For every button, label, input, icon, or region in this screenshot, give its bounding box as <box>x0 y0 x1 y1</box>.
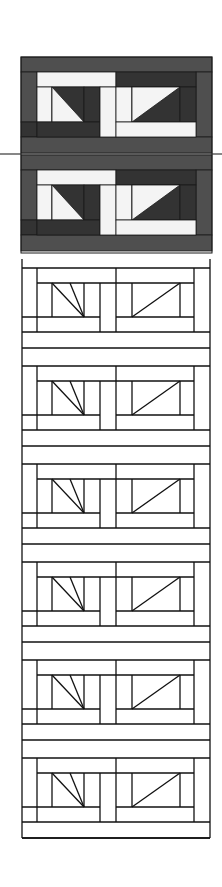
right-diagonal <box>132 283 180 317</box>
right-strip <box>116 87 132 122</box>
left-diagonal <box>52 479 84 513</box>
center-column <box>100 87 116 137</box>
bottom-band <box>21 235 212 251</box>
right-column <box>196 72 212 137</box>
outline-stroke <box>70 283 84 317</box>
left-column <box>21 170 37 220</box>
outline-stroke <box>70 675 84 709</box>
bottom-left-bar <box>37 122 100 137</box>
right-dark-strip <box>180 87 196 122</box>
right-diagonal <box>132 773 180 807</box>
left-diagonal <box>52 675 84 709</box>
top-left-bar <box>37 170 116 185</box>
bottom-left-bar <box>37 220 100 235</box>
bottom-right-bar <box>116 122 196 137</box>
left-dark-strip <box>84 87 100 122</box>
shaded-block <box>21 57 212 153</box>
right-strip <box>116 185 132 220</box>
outline-stroke <box>70 577 84 611</box>
corner-square <box>21 122 37 137</box>
right-diagonal <box>132 675 180 709</box>
left-diagonal <box>52 283 84 317</box>
left-diagonal <box>52 773 84 807</box>
outline-stroke <box>70 381 84 415</box>
bottom-band <box>21 137 212 153</box>
left-strip <box>37 87 52 122</box>
corner-square <box>21 220 37 235</box>
left-diagonal <box>52 381 84 415</box>
shaded-block <box>21 155 212 251</box>
top-left-bar <box>37 72 116 87</box>
quilt-pattern-diagram <box>0 0 222 887</box>
outline-stroke <box>70 479 84 513</box>
left-diagonal <box>52 577 84 611</box>
right-dark-strip <box>180 185 196 220</box>
top-band <box>21 57 212 72</box>
top-band <box>21 155 212 170</box>
outline-stroke <box>70 773 84 807</box>
center-column <box>100 185 116 235</box>
outline-blocks-section <box>22 259 210 838</box>
top-right-bar <box>116 72 196 87</box>
left-strip <box>37 185 52 220</box>
right-column <box>196 170 212 235</box>
shaded-blocks-section <box>21 57 212 253</box>
top-right-bar <box>116 170 196 185</box>
left-column <box>21 72 37 122</box>
right-diagonal <box>132 381 180 415</box>
right-diagonal <box>132 577 180 611</box>
bottom-right-bar <box>116 220 196 235</box>
right-diagonal <box>132 479 180 513</box>
left-dark-strip <box>84 185 100 220</box>
